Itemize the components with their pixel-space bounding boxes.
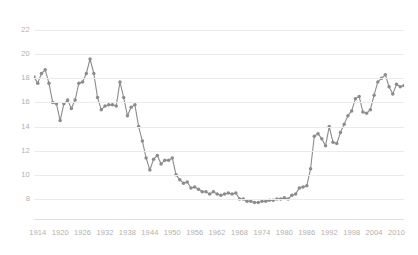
y-tick-label-10: 10 (2, 171, 30, 179)
data-point (159, 162, 163, 166)
data-point (301, 185, 305, 189)
x-tick-label-1986: 1986 (298, 228, 315, 237)
x-axis-baseline (34, 219, 404, 220)
data-point (85, 72, 89, 76)
data-point (361, 110, 365, 114)
data-point (215, 192, 219, 196)
gridline-y-18 (34, 78, 404, 79)
data-point (118, 80, 122, 84)
data-point (245, 200, 249, 204)
data-point (144, 156, 148, 160)
data-point (156, 154, 160, 158)
data-point (369, 108, 373, 112)
data-point (399, 85, 403, 89)
data-point (197, 188, 201, 192)
data-point (324, 144, 328, 148)
data-point (66, 98, 70, 102)
x-tick-label-2010: 2010 (388, 228, 405, 237)
data-point (313, 134, 317, 138)
series-line (34, 59, 404, 203)
data-point (77, 81, 81, 85)
x-tick-label-1962: 1962 (209, 228, 226, 237)
data-point (189, 186, 193, 190)
data-point (316, 132, 320, 136)
data-point (208, 192, 212, 196)
data-point (36, 81, 39, 85)
y-tick-label-8: 8 (2, 195, 30, 203)
data-point (290, 194, 294, 198)
data-point (376, 80, 380, 84)
data-point (260, 200, 264, 204)
data-point (103, 104, 107, 108)
data-point (129, 106, 133, 110)
data-point (43, 68, 47, 72)
x-tick-label-1920: 1920 (52, 228, 69, 237)
plot-area (34, 18, 404, 211)
data-point (253, 201, 257, 205)
y-tick-label-16: 16 (2, 98, 30, 106)
gridline-y-12 (34, 151, 404, 152)
y-tick-label-20: 20 (2, 50, 30, 58)
data-point (339, 131, 343, 135)
line-chart: 810121416182022 191419201926193219381944… (0, 0, 418, 255)
data-point (346, 114, 350, 118)
y-axis: 810121416182022 (0, 18, 30, 211)
data-point (391, 92, 395, 96)
x-tick-label-1968: 1968 (231, 228, 248, 237)
data-point (212, 190, 216, 194)
y-tick-label-14: 14 (2, 123, 30, 131)
data-point (126, 114, 129, 118)
data-point (219, 194, 223, 198)
data-point (230, 192, 234, 196)
data-point (152, 157, 156, 161)
x-tick-label-1980: 1980 (276, 228, 293, 237)
data-series (34, 18, 404, 211)
data-point (294, 192, 298, 196)
data-point (88, 57, 92, 61)
data-point (185, 180, 189, 184)
data-point (372, 93, 376, 97)
gridline-y-8 (34, 199, 404, 200)
data-point (200, 190, 204, 194)
data-point (331, 140, 335, 144)
data-point (384, 73, 388, 77)
data-point (171, 156, 175, 160)
gridline-y-14 (34, 127, 404, 128)
data-point (178, 178, 182, 182)
data-point (395, 83, 399, 87)
data-point (204, 190, 208, 194)
data-point (387, 85, 391, 89)
x-tick-label-1998: 1998 (343, 228, 360, 237)
x-tick-label-2004: 2004 (366, 228, 383, 237)
x-tick-label-1938: 1938 (119, 228, 136, 237)
data-point (320, 137, 324, 141)
data-point (305, 184, 309, 188)
y-tick-label-22: 22 (2, 26, 30, 34)
data-point (335, 142, 339, 146)
data-point (193, 185, 197, 189)
data-point (111, 103, 115, 107)
data-point (264, 200, 268, 204)
data-point (107, 103, 111, 107)
data-point (350, 109, 354, 113)
x-tick-label-1926: 1926 (74, 228, 91, 237)
x-tick-label-1956: 1956 (186, 228, 203, 237)
data-point (357, 95, 361, 99)
data-point (223, 192, 227, 196)
data-point (256, 201, 260, 205)
y-tick-label-18: 18 (2, 74, 30, 82)
data-point (70, 107, 74, 111)
data-point (342, 122, 346, 126)
series-markers (34, 57, 404, 204)
data-point (365, 112, 369, 116)
x-tick-label-1950: 1950 (164, 228, 181, 237)
gridline-y-22 (34, 30, 404, 31)
x-tick-label-1944: 1944 (141, 228, 158, 237)
data-point (354, 97, 358, 101)
data-point (73, 98, 77, 102)
x-tick-label-1974: 1974 (253, 228, 270, 237)
data-point (81, 80, 85, 84)
data-point (40, 72, 44, 76)
data-point (122, 96, 126, 100)
gridline-y-10 (34, 175, 404, 176)
